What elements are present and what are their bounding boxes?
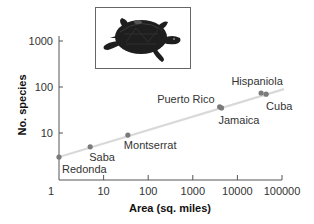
x-tick-label: 1000	[181, 185, 205, 197]
data-point	[125, 133, 130, 138]
x-tick-label: 100	[139, 185, 157, 197]
point-label: Jamaica	[218, 114, 260, 126]
point-label: Saba	[89, 151, 116, 163]
point-label: Puerto Rico	[157, 93, 214, 105]
data-point	[263, 92, 268, 97]
y-tick-label: 100	[35, 81, 53, 93]
point-label: Hispaniola	[231, 75, 283, 87]
x-tick-label: 1	[48, 185, 54, 197]
x-tick-label: 10000	[222, 185, 253, 197]
x-axis-title: Area (sq. miles)	[129, 202, 211, 214]
data-point	[88, 144, 93, 149]
y-axis-title: No. species	[16, 74, 28, 135]
y-tick-label: 1000	[29, 35, 53, 47]
x-tick-label: 100000	[264, 185, 301, 197]
point-label: Cuba	[266, 100, 293, 112]
data-point	[259, 90, 264, 95]
point-label: Montserrat	[124, 139, 177, 151]
y-tick-label: 10	[41, 127, 53, 139]
x-tick-label: 10	[97, 185, 109, 197]
data-point	[56, 154, 61, 159]
data-point	[219, 105, 224, 110]
point-label: Redonda	[62, 163, 108, 175]
species-area-chart: 101001000110100100010000100000RedondaSab…	[0, 0, 314, 224]
